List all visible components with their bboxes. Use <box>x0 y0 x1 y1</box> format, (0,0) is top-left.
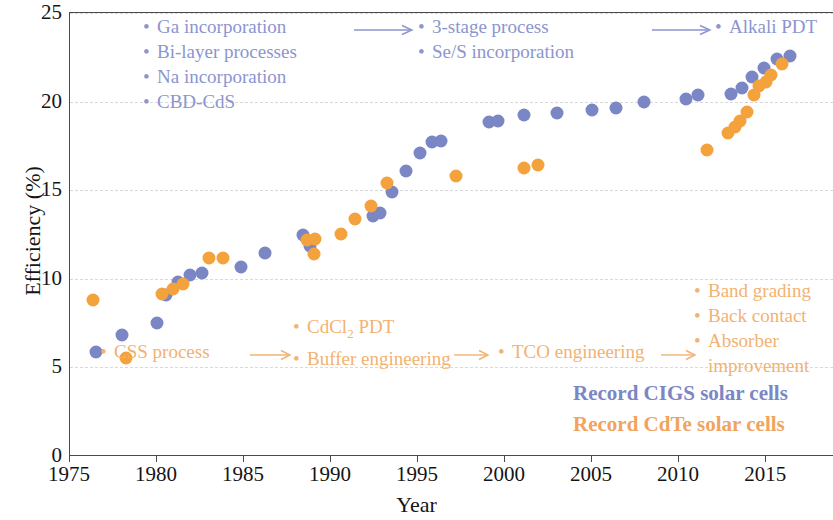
arrow-right-icon <box>452 347 494 363</box>
data-point-cigs <box>692 88 705 101</box>
annotation-cigs-group-3: • Alkali PDT <box>715 14 817 39</box>
bullet-icon: • <box>418 39 432 64</box>
annotation-item: • Buffer engineering <box>293 346 451 371</box>
y-axis-label: Efficiency (%) <box>20 61 46 401</box>
x-tick <box>591 455 592 462</box>
data-point-cdte <box>532 158 545 171</box>
data-point-cdte <box>700 144 713 157</box>
data-point-cigs <box>551 107 564 120</box>
annotation-text-line2: improvement <box>708 355 809 376</box>
bullet-icon: • <box>143 39 157 64</box>
x-tick <box>417 455 418 462</box>
annotation-cdte-group-1: • CSS process <box>100 339 210 364</box>
data-point-cigs <box>258 247 271 260</box>
y-tick-label: 25 <box>41 0 62 25</box>
data-point-cdte <box>86 294 99 307</box>
bullet-icon: • <box>694 303 708 328</box>
x-tick <box>330 455 331 462</box>
annotation-item: • Na incorporation <box>143 64 297 89</box>
annotation-cdte-group-3: • TCO engineering <box>498 339 644 364</box>
annotation-text: Alkali PDT <box>729 14 817 39</box>
bullet-icon: • <box>143 64 157 89</box>
annotation-text-line1: Absorber <box>708 330 779 351</box>
annotation-text: 3-stage process <box>432 14 549 39</box>
data-point-cigs <box>399 164 412 177</box>
bullet-icon: • <box>100 339 114 364</box>
x-axis-line <box>69 455 833 456</box>
annotation-item: • Band grading <box>694 278 811 303</box>
data-point-cdte <box>177 278 190 291</box>
bullet-icon: • <box>143 89 157 114</box>
data-point-cdte <box>349 213 362 226</box>
bullet-icon: • <box>143 14 157 39</box>
annotation-text: Buffer engineering <box>307 346 451 371</box>
bullet-icon: • <box>498 339 512 364</box>
annotation-item: • Absorberimprovement <box>694 328 811 378</box>
bullet-icon: • <box>715 14 729 39</box>
x-axis-label: Year <box>0 492 833 518</box>
annotation-text-tail: PDT <box>354 316 395 337</box>
x-tick-label: 2005 <box>570 462 612 487</box>
data-point-cigs <box>196 266 209 279</box>
data-point-cigs <box>413 146 426 159</box>
data-point-cdte <box>740 106 753 119</box>
bullet-icon: • <box>293 314 307 339</box>
annotation-item: • CSS process <box>100 339 210 364</box>
data-point-cigs <box>518 108 531 121</box>
annotation-item: • Bi-layer processes <box>143 39 297 64</box>
x-tick <box>765 455 766 462</box>
arrow-right-icon <box>248 347 296 363</box>
data-point-cigs <box>492 115 505 128</box>
annotation-text: Se/S incorporation <box>432 39 574 64</box>
x-tick <box>156 455 157 462</box>
annotation-text: TCO engineering <box>512 339 644 364</box>
x-tick-label: 1980 <box>135 462 177 487</box>
annotation-item: • CBD-CdS <box>143 89 297 114</box>
data-point-cigs <box>434 135 447 148</box>
annotation-item: • Se/S incorporation <box>418 39 574 64</box>
annotation-text: Bi-layer processes <box>157 39 297 64</box>
annotation-text: CBD-CdS <box>157 89 235 114</box>
arrow-right-icon <box>352 22 418 38</box>
annotation-cigs-group-1: • Ga incorporation • Bi-layer processes … <box>143 14 297 114</box>
annotation-text: Back contact <box>708 303 807 328</box>
annotation-text: Na incorporation <box>157 64 286 89</box>
data-point-cdte <box>203 252 216 265</box>
data-point-cigs <box>151 317 164 330</box>
data-point-cdte <box>518 162 531 175</box>
annotation-text-main: CdCl <box>307 316 347 337</box>
data-point-cigs <box>638 95 651 108</box>
data-point-cdte <box>335 227 348 240</box>
data-point-cigs <box>234 261 247 274</box>
annotation-item: • Alkali PDT <box>715 14 817 39</box>
legend-label-cigs: Record CIGS solar cells <box>573 381 788 406</box>
data-point-cdte <box>450 170 463 183</box>
chart-figure: 197519801985199019952000200520102015 051… <box>0 0 833 520</box>
annotation-text: Ga incorporation <box>157 14 286 39</box>
annotation-item: • 3-stage process <box>418 14 574 39</box>
data-point-cigs <box>735 82 748 95</box>
annotation-item: • Ga incorporation <box>143 14 297 39</box>
data-point-cdte <box>309 232 322 245</box>
arrow-right-icon <box>650 22 716 38</box>
annotation-item: • TCO engineering <box>498 339 644 364</box>
annotation-text: Band grading <box>708 278 811 303</box>
x-tick-label: 2015 <box>744 462 786 487</box>
y-tick-label: 5 <box>52 354 63 379</box>
gridline <box>70 190 833 191</box>
bullet-icon: • <box>418 14 432 39</box>
data-point-cdte <box>775 58 788 71</box>
data-point-cdte <box>307 247 320 260</box>
bullet-icon: • <box>694 278 708 303</box>
annotation-item: • CdCl2 PDT <box>293 314 451 346</box>
x-tick <box>243 455 244 462</box>
annotation-item: • Back contact <box>694 303 811 328</box>
data-point-cdte <box>765 69 778 82</box>
x-tick <box>69 455 70 462</box>
data-point-cigs <box>680 92 693 105</box>
x-tick-label: 1990 <box>309 462 351 487</box>
bullet-icon: • <box>694 328 708 353</box>
legend-label-cdte: Record CdTe solar cells <box>573 412 785 437</box>
bullet-icon: • <box>293 346 307 371</box>
data-point-cdte <box>365 200 378 213</box>
